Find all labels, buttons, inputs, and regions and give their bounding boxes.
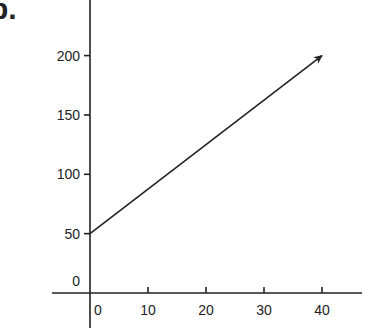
x-tick-label: 10 — [140, 302, 156, 318]
series-line — [90, 56, 322, 234]
y-tick-label: 200 — [57, 48, 81, 64]
y-tick-label: 50 — [64, 226, 80, 242]
x-tick-label: 0 — [94, 302, 102, 318]
line-chart: 010203040050100150200 — [0, 0, 370, 330]
x-tick-label: 30 — [256, 302, 272, 318]
y-tick-label: 100 — [57, 166, 81, 182]
x-tick-label: 20 — [198, 302, 214, 318]
x-tick-label: 40 — [314, 302, 330, 318]
y-tick-label: 150 — [57, 107, 81, 123]
chart-figure: b. 010203040050100150200 — [0, 0, 370, 330]
y-tick-label: 0 — [72, 273, 80, 289]
